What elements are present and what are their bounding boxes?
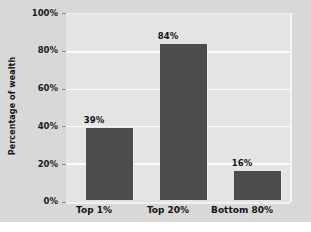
x-tick-label-top-20-percent: Top 20% xyxy=(132,205,204,215)
bar-value-label-top-20-percent: 84% xyxy=(136,31,200,41)
y-tick-label-40: 40% xyxy=(10,121,58,131)
plot-area xyxy=(66,13,292,202)
bar-bottom-80-percent[interactable] xyxy=(234,171,282,201)
y-tick-label-20: 20% xyxy=(10,159,58,169)
x-tick-label-bottom-80-percent: Bottom 80% xyxy=(206,205,278,215)
gridline-0 xyxy=(66,202,290,204)
y-axis-title: Percentage of wealth xyxy=(8,46,24,166)
y-tick-label-60: 60% xyxy=(10,83,58,93)
bar-chart-figure: Percentage of wealth 100% 80% 60% 40% 20… xyxy=(0,0,311,232)
y-tick-label-80: 80% xyxy=(10,45,58,55)
bar-value-label-bottom-80-percent: 16% xyxy=(210,158,274,168)
bar-top-1-percent[interactable] xyxy=(86,128,134,201)
bar-top-20-percent[interactable] xyxy=(160,44,208,201)
bar-value-label-top-1-percent: 39% xyxy=(62,115,126,125)
x-tick-label-top-1-percent: Top 1% xyxy=(58,205,130,215)
y-tick-label-0: 0% xyxy=(10,196,58,206)
y-tick-label-100: 100% xyxy=(10,8,58,18)
